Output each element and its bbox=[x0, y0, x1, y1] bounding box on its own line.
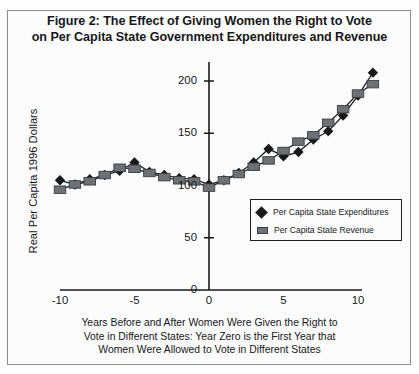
x-axis-caption: Years Before and After Women Were Given … bbox=[12, 316, 407, 357]
x-tick-label: 10 bbox=[338, 294, 378, 306]
diamond-marker-icon bbox=[255, 206, 268, 219]
figure-container: Figure 2: The Effect of Giving Women the… bbox=[0, 0, 419, 374]
caption-line-1: Years Before and After Women Were Given … bbox=[12, 316, 407, 330]
square-marker-icon bbox=[257, 227, 268, 234]
caption-line-2: Vote in Different States: Year Zero is t… bbox=[12, 330, 407, 344]
legend-item-revenue: Per Capita State Revenue bbox=[257, 223, 374, 237]
x-tick-label: -10 bbox=[40, 294, 80, 306]
y-tick-label: 200 bbox=[157, 74, 197, 86]
y-axis-title: Real Per Capita 1996 Dollars bbox=[27, 86, 39, 276]
y-tick-label: 150 bbox=[157, 126, 197, 138]
x-tick-label: 5 bbox=[264, 294, 304, 306]
title-line-1: Figure 2: The Effect of Giving Women the… bbox=[10, 14, 409, 30]
title-line-2: on Per Capita State Government Expenditu… bbox=[10, 30, 409, 46]
chart-legend: Per Capita State Expenditures Per Capita… bbox=[250, 199, 402, 241]
x-tick-label: -5 bbox=[115, 294, 155, 306]
figure-border bbox=[7, 10, 411, 365]
caption-line-3: Women Were Allowed to Vote in Different … bbox=[12, 343, 407, 357]
legend-label-expenditures: Per Capita State Expenditures bbox=[273, 207, 389, 217]
y-tick-label: 100 bbox=[157, 179, 197, 191]
legend-label-revenue: Per Capita State Revenue bbox=[274, 225, 374, 235]
legend-item-expenditures: Per Capita State Expenditures bbox=[257, 205, 389, 219]
y-tick-label: 50 bbox=[157, 231, 197, 243]
x-tick-label: 0 bbox=[189, 294, 229, 306]
figure-title: Figure 2: The Effect of Giving Women the… bbox=[10, 14, 409, 45]
